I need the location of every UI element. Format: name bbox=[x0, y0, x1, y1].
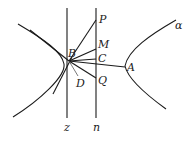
diagram-canvas: P M B C A D Q z n α bbox=[0, 0, 190, 141]
tangent-line-at-b bbox=[53, 57, 72, 94]
hyperbola-diagram: P M B C A D Q z n α bbox=[0, 0, 190, 141]
line-through-b-upper bbox=[30, 30, 69, 61]
label-z: z bbox=[63, 121, 70, 134]
left-hyperbola-branch bbox=[13, 24, 64, 117]
label-b: B bbox=[67, 47, 76, 60]
label-n: n bbox=[93, 121, 100, 134]
label-a: A bbox=[126, 61, 135, 74]
label-c: C bbox=[98, 52, 107, 65]
label-alpha: α bbox=[175, 19, 183, 32]
label-m: M bbox=[97, 38, 110, 51]
label-p: P bbox=[98, 13, 107, 26]
label-d: D bbox=[75, 77, 85, 90]
label-q: Q bbox=[98, 74, 107, 87]
